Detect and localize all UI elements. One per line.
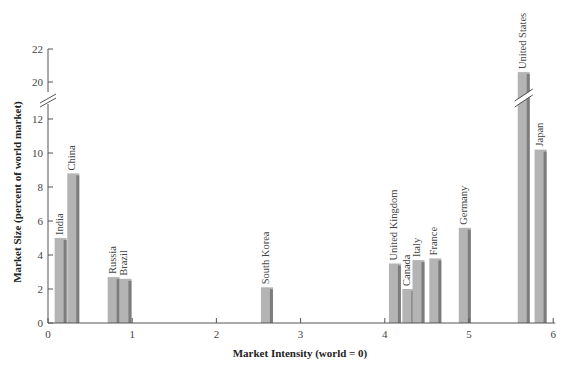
x-tick-label: 5 (466, 328, 472, 340)
y-axis-title: Market Size (percent of world market) (11, 101, 24, 283)
bar-label: South Korea (260, 231, 271, 284)
y-tick-label: 22 (32, 43, 43, 55)
bar-united-states: United States (515, 13, 533, 323)
bar-label: Germany (458, 185, 469, 225)
x-axis-title: Market Intensity (world = 0) (233, 347, 368, 360)
y-tick-label: 6 (38, 215, 44, 227)
y-tick-label: 8 (38, 181, 44, 193)
bar-india: India (54, 213, 67, 323)
bar-canada: Canada (401, 254, 414, 323)
bar-label: Russia (107, 246, 118, 274)
bar-label: United States (517, 13, 528, 69)
bar-label: Japan (534, 122, 545, 147)
x-tick-label: 4 (382, 328, 388, 340)
bar-japan: Japan (534, 122, 547, 323)
y-tick-label: 0 (38, 317, 44, 329)
y-tick-label: 10 (32, 147, 44, 159)
bar-label: France (428, 226, 439, 255)
x-tick-label: 3 (298, 328, 304, 340)
bar-label: Canada (401, 254, 412, 286)
bar-label: China (66, 145, 77, 170)
bar-united-kingdom: United Kingdom (388, 190, 401, 323)
y-tick-label: 2 (38, 283, 44, 295)
bar-label: Italy (411, 237, 422, 257)
x-tick-label: 6 (550, 328, 556, 340)
axis-break-mark (40, 94, 56, 103)
bar-label: United Kingdom (388, 190, 399, 261)
x-tick-label: 2 (214, 328, 220, 340)
bar-south-korea: South Korea (260, 231, 273, 323)
market-size-chart: IndiaChinaRussiaBrazilSouth KoreaUnited … (0, 0, 567, 373)
bar-label: Brazil (118, 250, 129, 276)
bar-italy: Italy (411, 237, 424, 323)
x-tick-label: 1 (129, 328, 135, 340)
bar-label: India (54, 213, 65, 235)
bar-germany: Germany (458, 185, 471, 323)
y-tick-label: 4 (38, 249, 44, 261)
bar-china: China (66, 145, 79, 323)
bar-france: France (428, 226, 441, 323)
y-tick-label: 12 (32, 113, 43, 125)
y-tick-label: 20 (32, 76, 44, 88)
bars: IndiaChinaRussiaBrazilSouth KoreaUnited … (54, 13, 547, 323)
x-tick-label: 0 (45, 328, 51, 340)
bar-brazil: Brazil (118, 250, 131, 323)
